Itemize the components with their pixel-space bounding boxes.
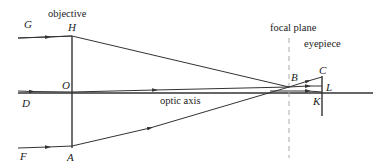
focal-plane-label: focal plane [270, 23, 316, 34]
eyepiece-label: eyepiece [304, 39, 341, 50]
ray-H-B [72, 36, 289, 87]
point-C-label: C [319, 65, 326, 76]
objective-label: objective [48, 9, 86, 20]
point-H-label: H [68, 22, 76, 33]
point-G-label: G [24, 19, 32, 30]
point-D-label: D [22, 98, 30, 109]
point-F-label: F [20, 151, 27, 162]
point-K-label: K [313, 96, 320, 107]
optic-axis-label: optic axis [160, 96, 201, 107]
point-L-label: L [326, 82, 332, 93]
point-O-label: O [62, 80, 70, 91]
telescope-diagram: objective focal plane eyepiece optic axi… [0, 0, 387, 168]
point-A-label: A [67, 152, 74, 163]
point-B-label: B [291, 72, 298, 83]
